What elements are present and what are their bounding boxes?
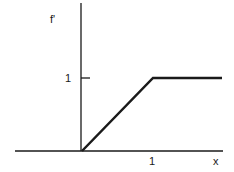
chart-plot <box>0 0 234 172</box>
y-tick-label-1: 1 <box>65 73 71 84</box>
y-axis-label: f' <box>50 14 55 25</box>
series-f-prime <box>82 78 222 151</box>
x-axis-label: x <box>213 156 219 167</box>
x-tick-label-1: 1 <box>149 156 155 167</box>
